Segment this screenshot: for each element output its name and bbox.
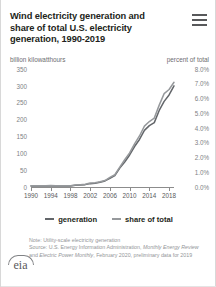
- left-tick-250: 250: [3, 99, 27, 106]
- left-axis-title: billion kilowatthours: [10, 56, 65, 63]
- left-tick-50: 50: [3, 167, 27, 174]
- left-tick-300: 300: [3, 83, 27, 90]
- menu-bar-2: [192, 19, 207, 21]
- share-line: [31, 82, 174, 186]
- source-date: , February 2020,: [93, 252, 132, 258]
- right-tick-4.0pct: 4.0%: [183, 125, 209, 132]
- series-lines: [31, 69, 174, 187]
- source-prefix: Source: U.S. Energy Information Administ…: [29, 244, 143, 250]
- x-axis-line: [31, 187, 174, 188]
- right-tick-6.0pct: 6.0%: [183, 95, 209, 102]
- x-tickmark-2002: [90, 188, 91, 191]
- source-notes: Note: Utility-scale electricity generati…: [29, 237, 201, 259]
- right-tick-2.0pct: 2.0%: [183, 154, 209, 161]
- generation-line: [31, 86, 174, 186]
- x-tick-2018: 2018: [157, 192, 181, 199]
- x-tickmark-2014: [149, 188, 150, 191]
- right-tick-1.0pct: 1.0%: [183, 169, 209, 176]
- note-line: Note: Utility-scale electricity generati…: [29, 237, 201, 244]
- right-axis-title: percent of total: [167, 56, 209, 63]
- left-tick-200: 200: [3, 116, 27, 123]
- legend-item-share[interactable]: share of total: [112, 215, 173, 224]
- legend-swatch-generation: [45, 218, 54, 220]
- x-tickmark-1998: [70, 188, 71, 191]
- legend-label-generation: generation: [58, 215, 97, 224]
- left-tick-100: 100: [3, 150, 27, 157]
- source-prelim: preliminary data for 2019: [134, 252, 193, 258]
- legend-item-generation[interactable]: generation: [45, 215, 97, 224]
- x-tickmark-1994: [51, 188, 52, 191]
- x-tickmark-2018: [169, 188, 170, 191]
- source-line: Source: U.S. Energy Information Administ…: [29, 244, 201, 259]
- source-pub-3: Electric Power Monthly: [39, 252, 93, 258]
- legend-swatch-share: [112, 218, 121, 220]
- left-tick-150: 150: [3, 133, 27, 140]
- right-tick-5.0pct: 5.0%: [183, 110, 209, 117]
- x-tickmark-2006: [110, 188, 111, 191]
- source-pub-2: Energy Review: [163, 244, 199, 250]
- right-tick-7.0pct: 7.0%: [183, 80, 209, 87]
- eia-logo-text: eia: [7, 258, 34, 273]
- right-tick-8.0pct: 8.0%: [183, 66, 209, 73]
- left-tick-350: 350: [3, 66, 27, 73]
- chart-header: Wind electricity generation and share of…: [1, 0, 216, 52]
- source-pub-1: Monthly: [143, 244, 162, 250]
- hamburger-menu-icon[interactable]: [192, 14, 207, 26]
- chart-plot-region: billion kilowatthours percent of total 0…: [1, 52, 216, 207]
- menu-bar-3: [192, 24, 207, 26]
- legend-label-share: share of total: [125, 215, 173, 224]
- x-tickmark-1990: [31, 188, 32, 191]
- x-tickmark-2010: [130, 188, 131, 191]
- chart-footer: Note: Utility-scale electricity generati…: [1, 232, 216, 287]
- menu-bar-1: [192, 14, 207, 16]
- left-tick-0: 0: [3, 184, 27, 191]
- right-tick-3.0pct: 3.0%: [183, 139, 209, 146]
- eia-logo[interactable]: eia: [7, 255, 34, 273]
- right-tick-0.0pct: 0.0%: [183, 184, 209, 191]
- page-title: Wind electricity generation and share of…: [10, 11, 170, 46]
- chart-legend: generation share of total: [1, 212, 216, 226]
- chart-card: Wind electricity generation and share of…: [0, 0, 216, 287]
